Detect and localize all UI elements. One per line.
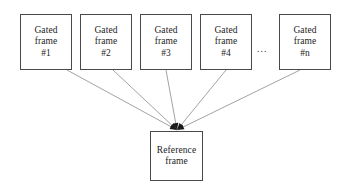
gated-frame-n-line3: #n <box>300 48 310 60</box>
gated-frame-1-line1: Gated <box>34 25 57 37</box>
gated-frame-3-line1: Gated <box>154 25 177 37</box>
arrowhead-gated-frame-3 <box>173 123 178 130</box>
gated-frame-n-line1: Gated <box>293 25 316 37</box>
reference-frame-box[interactable]: Reference frame <box>150 131 203 181</box>
ellipsis-label: ... <box>257 44 268 54</box>
arrowhead-gated-frame-2 <box>170 123 177 130</box>
gated-frame-n-line2: frame <box>294 36 317 48</box>
diagram-canvas: Gated frame #1 Gated frame #2 Gated fram… <box>0 0 346 191</box>
gated-frame-1-line3: #1 <box>41 48 51 60</box>
edge-gated-frame-n-to-reference-frame <box>177 70 300 130</box>
arrowhead-gated-frame-1 <box>170 124 177 130</box>
gated-frame-3-line2: frame <box>155 36 178 48</box>
gated-frame-1-line2: frame <box>35 36 58 48</box>
reference-frame-line1: Reference <box>157 145 196 157</box>
edge-gated-frame-4-to-reference-frame <box>177 70 226 130</box>
edge-gated-frame-1-to-reference-frame <box>67 70 177 130</box>
gated-frame-4-line2: frame <box>215 36 238 48</box>
gated-frame-2-line1: Gated <box>94 25 117 37</box>
gated-frame-4-line1: Gated <box>214 25 237 37</box>
edge-gated-frame-3-to-reference-frame <box>166 70 177 130</box>
arrowhead-gated-frame-n <box>177 125 184 130</box>
edge-gated-frame-2-to-reference-frame <box>113 70 177 130</box>
gated-frame-4-line3: #4 <box>221 48 231 60</box>
gated-frame-2-line2: frame <box>95 36 118 48</box>
gated-frame-4-box[interactable]: Gated frame #4 <box>200 14 252 70</box>
gated-frame-2-line3: #2 <box>101 48 111 60</box>
gated-frame-2-box[interactable]: Gated frame #2 <box>80 14 132 70</box>
gated-frame-1-box[interactable]: Gated frame #1 <box>20 14 72 70</box>
gated-frame-3-box[interactable]: Gated frame #3 <box>140 14 192 70</box>
arrowhead-gated-frame-4 <box>177 123 183 130</box>
gated-frame-3-line3: #3 <box>161 48 171 60</box>
reference-frame-line2: frame <box>165 156 188 168</box>
gated-frame-n-box[interactable]: Gated frame #n <box>279 14 331 70</box>
